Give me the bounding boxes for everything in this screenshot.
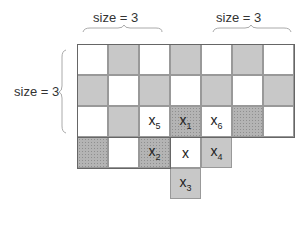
grid-cell	[108, 75, 139, 106]
cell-label: x3	[179, 174, 191, 193]
cell-label: x5	[148, 112, 160, 131]
grid-cell	[139, 75, 170, 106]
grid-cell	[232, 106, 263, 137]
cell-x: x	[170, 137, 201, 168]
grid-cell	[170, 75, 201, 106]
cell-x2: x2	[139, 137, 170, 168]
grid-cell	[232, 75, 263, 106]
grid-cell	[263, 75, 294, 106]
cell-label: x	[182, 145, 189, 161]
grid-cell	[263, 106, 294, 137]
grid-cell	[170, 44, 201, 75]
grid-cell	[139, 44, 170, 75]
cell-label: x2	[148, 143, 160, 162]
grid-cell	[77, 137, 108, 168]
cell-x3: x3	[170, 168, 201, 199]
cell-x6: x6	[201, 106, 232, 137]
cell-x4: x4	[201, 137, 232, 168]
grid-cell	[201, 75, 232, 106]
grid-cell	[263, 44, 294, 75]
cell-x5: x5	[139, 106, 170, 137]
grid-cell	[77, 44, 108, 75]
cell-x1: x1	[170, 106, 201, 137]
grid-cell	[108, 106, 139, 137]
grid-cell	[77, 106, 108, 137]
cell-label: x1	[179, 112, 191, 131]
grid-cell	[77, 75, 108, 106]
grid-cell	[108, 44, 139, 75]
grid-cell	[201, 44, 232, 75]
grid-cell	[232, 44, 263, 75]
grid-cell	[108, 137, 139, 168]
cell-label: x4	[210, 143, 222, 162]
cell-label: x6	[210, 112, 222, 131]
